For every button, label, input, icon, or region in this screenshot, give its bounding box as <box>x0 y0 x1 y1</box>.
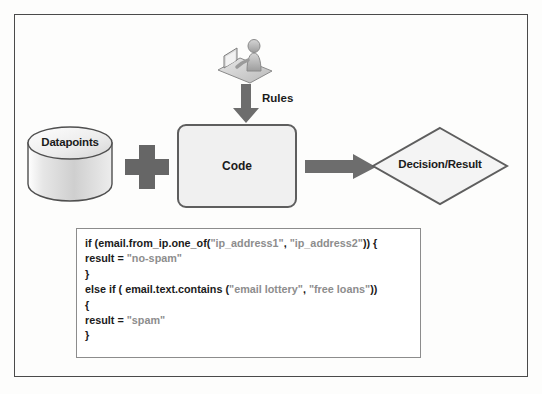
code-line: else if ( email.text.contains ("email lo… <box>85 282 420 297</box>
datapoints-label: Datapoints <box>27 136 113 148</box>
code-token: } <box>85 329 89 341</box>
code-token: } <box>85 268 89 280</box>
code-token: { <box>85 299 89 311</box>
code-line: } <box>85 328 420 343</box>
code-string-literal: "email lottery" <box>229 283 303 295</box>
code-line: result = "no-spam" <box>85 251 420 266</box>
code-string-literal: "spam" <box>127 314 165 326</box>
code-line: } <box>85 267 420 282</box>
down-block-arrow-icon <box>232 84 260 124</box>
code-node-label: Code <box>222 159 252 173</box>
plus-icon-vertical-bar <box>139 145 155 189</box>
code-node: Code <box>177 124 297 208</box>
person-at-computer-icon <box>214 38 276 86</box>
code-string-literal: "ip_address1" <box>210 237 283 249</box>
code-token: result = <box>85 252 127 264</box>
right-block-arrow-icon <box>305 154 377 180</box>
plus-icon <box>125 145 169 189</box>
code-token: if (email.from_ip.one_of( <box>85 237 210 249</box>
code-string-literal: "ip_address2" <box>290 237 363 249</box>
diagram-canvas: Rules Datapoints <box>0 0 542 394</box>
code-line: result = "spam" <box>85 313 420 328</box>
code-listing-panel: if (email.from_ip.one_of("ip_address1", … <box>76 228 421 358</box>
code-token: else if ( email.text.contains ( <box>85 283 229 295</box>
decision-node-label: Decision/Result <box>371 158 509 170</box>
code-string-literal: "free loans" <box>309 283 370 295</box>
datapoints-node: Datapoints <box>27 126 113 204</box>
code-token: result = <box>85 314 127 326</box>
code-token: )) { <box>363 237 377 249</box>
code-token: )) <box>370 283 377 295</box>
code-string-literal: "no-spam" <box>127 252 182 264</box>
code-line: if (email.from_ip.one_of("ip_address1", … <box>85 236 420 251</box>
decision-node: Decision/Result <box>371 126 509 206</box>
rules-arrow-label: Rules <box>262 92 293 104</box>
code-line: { <box>85 298 420 313</box>
